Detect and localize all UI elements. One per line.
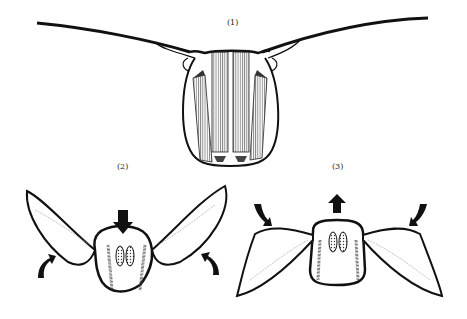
right-wing-icon [363, 228, 442, 296]
panel-3-drawing [237, 194, 442, 296]
curved-arrow-up-icon [38, 254, 56, 278]
left-wing-icon [237, 228, 313, 296]
curved-arrow-down-icon [254, 204, 272, 226]
arrow-up-icon [328, 194, 346, 213]
diagram-drawing [0, 0, 467, 319]
left-wing-icon [37, 23, 190, 52]
curved-arrow-up-icon [201, 252, 219, 275]
panel-2-drawing [27, 186, 226, 291]
right-wing-icon [262, 18, 428, 52]
right-wing-icon [152, 186, 226, 265]
insect-flight-diagram: (1) (2) (3) [0, 0, 467, 319]
curved-arrow-down-icon [409, 204, 427, 226]
left-wing-icon [27, 191, 95, 265]
panel-1-drawing [37, 18, 428, 166]
